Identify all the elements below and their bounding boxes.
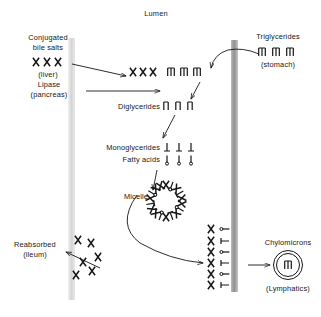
label-conjugated-bile-salts-line1: Conjugated xyxy=(8,33,88,42)
bile-salt-glyph-group-source xyxy=(33,58,61,66)
label-chylomicrons: Chylomicrons xyxy=(257,238,319,247)
arrow-diglycerides-to-monoglycerides xyxy=(163,115,175,138)
label-micelle: Micelle xyxy=(104,192,148,201)
bile-salt-glyph-group-lumen xyxy=(130,68,156,76)
arrow-lumen-to-diglycerides xyxy=(191,82,200,99)
label-ileum: (ileum) xyxy=(6,250,64,259)
lipid-digestion-diagram: Lumen Conjugated bile salts (liver) Lipa… xyxy=(0,0,321,317)
page-title: Lumen xyxy=(126,9,186,18)
label-diglycerides: Diglycerides xyxy=(100,102,160,111)
triglyceride-glyph-group-lumen xyxy=(168,68,201,76)
label-monoglycerides: Monoglycerides xyxy=(86,143,160,152)
label-triglycerides: Triglycerides xyxy=(241,32,315,41)
bile-salt-column-membrane xyxy=(208,225,214,289)
absorbed-lipid-column xyxy=(220,228,230,289)
monoglyceride-glyph-group xyxy=(164,143,194,151)
triglyceride-glyph-group-stomach xyxy=(259,48,294,56)
chylomicron-glyph xyxy=(274,251,303,280)
fatty-acid-glyph-group xyxy=(166,156,193,166)
diglyceride-glyph-group xyxy=(164,102,192,110)
label-lipase: Lipase xyxy=(14,80,84,89)
arrow-micelle-to-membrane xyxy=(127,195,203,263)
label-liver: (liver) xyxy=(8,70,88,79)
label-stomach: (stomach) xyxy=(241,60,315,69)
label-fatty-acids: Fatty acids xyxy=(96,155,160,164)
label-lymphatics: (Lymphatics) xyxy=(257,284,319,293)
label-reabsorbed: Reabsorbed xyxy=(6,240,64,249)
label-conjugated-bile-salts-line2: bile salts xyxy=(8,43,88,52)
micelle-ring xyxy=(146,181,187,221)
label-pancreas: (pancreas) xyxy=(14,90,84,99)
